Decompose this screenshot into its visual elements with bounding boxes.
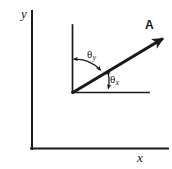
theta-y-label: θy xyxy=(87,49,96,62)
theta-x-symbol: θ xyxy=(110,73,115,85)
outer-x-axis-label: x xyxy=(137,151,143,164)
vector-angle-figure: y x A θy θx xyxy=(0,0,172,169)
vector-a-label: A xyxy=(145,19,154,31)
theta-x-subscript: x xyxy=(116,78,120,87)
outer-y-axis-label: y xyxy=(21,7,27,20)
theta-y-subscript: y xyxy=(93,53,97,62)
theta-x-label: θx xyxy=(110,74,119,87)
theta-y-symbol: θ xyxy=(87,48,92,60)
